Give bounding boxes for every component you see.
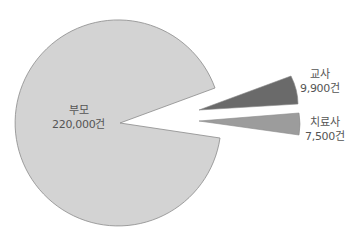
label-therapists: 치료사 7,500건: [305, 116, 345, 144]
label-teachers: 교사 9,900건: [300, 68, 340, 96]
label-parents: 부모 220,000건: [52, 104, 105, 132]
label-therapists-value: 7,500건: [305, 130, 345, 144]
slice-parents: [15, 20, 220, 226]
slice-teachers: [199, 76, 298, 110]
label-parents-name: 부모: [52, 104, 105, 118]
label-therapists-name: 치료사: [305, 116, 345, 130]
slice-therapists: [199, 113, 300, 135]
label-parents-value: 220,000건: [52, 118, 105, 132]
label-teachers-name: 교사: [300, 68, 340, 82]
label-teachers-value: 9,900건: [300, 82, 340, 96]
